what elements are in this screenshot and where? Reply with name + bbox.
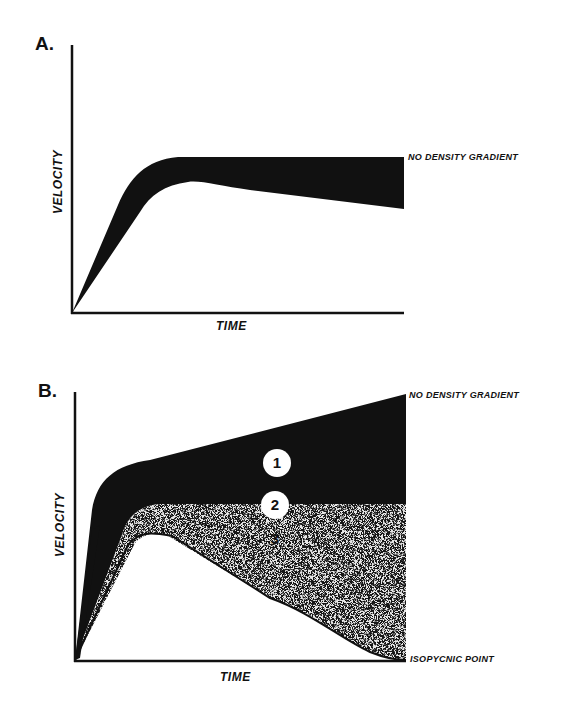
annotation-no-density-gradient: NO DENSITY GRADIENT [409, 390, 519, 400]
annotation-isopycnic-point: ISOPYCNIC POINT [410, 654, 494, 664]
y-axis-label: VELOCITY [53, 497, 67, 557]
x-axis-label: TIME [220, 670, 251, 684]
annotation-no-density-gradient: NO DENSITY GRADIENT [408, 152, 518, 162]
panel-b: B. 1 2 3 VELOCITY TIME NO DENSITY GRADIE… [0, 340, 574, 709]
velocity-time-diagram-a [0, 0, 574, 340]
region-1-label: 1 [263, 449, 291, 477]
x-axis-label: TIME [216, 319, 247, 333]
region-2-label: 2 [261, 491, 289, 519]
region-3-label: 3 [261, 525, 289, 553]
y-axis-label: VELOCITY [51, 154, 65, 214]
velocity-band-no-gradient [72, 157, 404, 313]
panel-a: A. VELOCITY TIME NO DENSITY GRADIENT [0, 0, 574, 340]
